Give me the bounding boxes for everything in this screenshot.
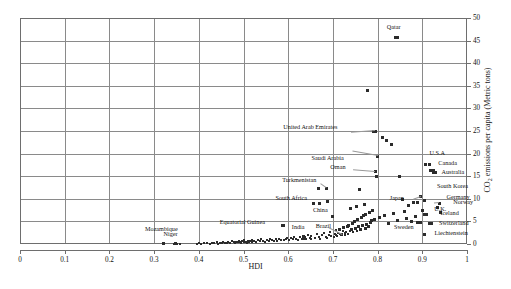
point-label-liechtenstein: Liechtenstein [435, 229, 468, 236]
point-label-canada: Canada [438, 159, 457, 166]
data-point [356, 230, 358, 232]
data-point [342, 226, 345, 229]
data-point [316, 233, 318, 235]
data-point [312, 202, 315, 205]
data-point [359, 228, 362, 231]
y-tick-mark [467, 18, 471, 19]
y-axis-title: CO2 emissions per capita (Metric tons) [483, 68, 494, 193]
gridline-horizontal [21, 154, 466, 155]
gridline-horizontal [21, 63, 466, 64]
data-point [383, 214, 386, 217]
point-label-south-korea: South Korea [437, 182, 468, 189]
point-label-turkmenistan: Turkmenistan [282, 176, 316, 183]
data-point [373, 218, 376, 221]
data-point [255, 241, 257, 243]
data-point [375, 175, 378, 178]
point-label-switzerland: Switzerland [439, 219, 469, 226]
data-point [268, 240, 270, 242]
data-point [314, 237, 316, 239]
point-label-niger: Niger [164, 230, 178, 237]
data-point [333, 236, 335, 238]
data-point [338, 228, 341, 231]
point-label-sweden: Sweden [394, 223, 414, 230]
data-point-labeled [424, 163, 427, 166]
data-point-labeled [318, 202, 321, 205]
data-point [326, 237, 328, 239]
y-tick-label: 50 [473, 14, 493, 22]
data-point [398, 175, 401, 178]
data-point [414, 215, 417, 218]
data-point [317, 187, 320, 190]
data-point [390, 143, 393, 146]
data-point [344, 234, 346, 236]
data-point-labeled [423, 233, 426, 236]
data-point [355, 205, 358, 208]
data-point-labeled [282, 224, 285, 227]
data-point [347, 233, 349, 235]
point-label-equatorial-guinea: Equatorial Guinea [220, 218, 265, 225]
data-point [288, 239, 290, 241]
data-point [405, 217, 408, 220]
gridline-horizontal [21, 86, 466, 87]
gridline-horizontal [21, 131, 466, 132]
data-point [428, 163, 431, 166]
data-point [352, 231, 354, 233]
data-point-labeled [428, 222, 431, 225]
data-point [381, 136, 384, 139]
data-point-labeled [419, 221, 422, 224]
plot-area [20, 18, 467, 244]
data-point [353, 220, 356, 223]
data-point-labeled [416, 201, 419, 204]
y-axis-title-subscript: 2 [487, 178, 493, 181]
data-point [307, 234, 309, 236]
data-point [323, 232, 325, 234]
data-point [363, 203, 366, 206]
data-point [310, 235, 312, 237]
data-point [367, 225, 370, 228]
y-axis-title-rest: emissions per capita (Metric tons) [483, 68, 492, 179]
data-point [259, 240, 261, 242]
data-point [273, 240, 275, 242]
y-tick-mark [467, 41, 471, 42]
data-point [336, 235, 338, 237]
data-point-labeled [302, 235, 305, 238]
y-tick-mark [467, 86, 471, 87]
point-label-u-s-a: U.S.A [429, 149, 444, 156]
data-point [347, 224, 350, 227]
data-point [329, 231, 331, 233]
data-point [305, 238, 307, 240]
data-point [385, 139, 388, 142]
y-tick-label: 45 [473, 37, 493, 45]
y-tick-label: 5 [473, 217, 493, 225]
x-tick-mark [467, 250, 468, 254]
point-label-china: China [313, 206, 328, 213]
data-point [371, 209, 374, 212]
data-point [356, 218, 359, 221]
point-label-south-africa: South Africa [275, 194, 306, 201]
gridline-horizontal [21, 41, 466, 42]
data-point-labeled [421, 209, 424, 212]
data-point [349, 207, 352, 210]
y-tick-mark [467, 244, 471, 245]
y-tick-label: 10 [473, 195, 493, 203]
data-point [326, 200, 329, 203]
x-axis-line [20, 250, 467, 251]
data-point [378, 216, 381, 219]
data-point [209, 243, 211, 245]
data-point-labeled [423, 213, 426, 216]
point-label-saudi-arabia: Saudi Arabia [312, 154, 344, 161]
y-tick-label: 0 [473, 240, 493, 248]
x-axis-title: HDI [0, 262, 511, 271]
data-point-labeled [396, 36, 399, 39]
point-label-united-arab-emirates: United Arab Emirates [283, 123, 337, 130]
data-point [203, 242, 205, 244]
point-label-norway: Norway [453, 198, 473, 205]
data-point [364, 227, 367, 230]
y-tick-mark [467, 131, 471, 132]
data-point [276, 240, 278, 242]
data-point [200, 243, 202, 245]
point-label-oman: Oman [330, 163, 345, 170]
point-label-qatar: Qatar [387, 23, 401, 30]
y-tick-mark [467, 108, 471, 109]
data-point-labeled [174, 242, 177, 245]
